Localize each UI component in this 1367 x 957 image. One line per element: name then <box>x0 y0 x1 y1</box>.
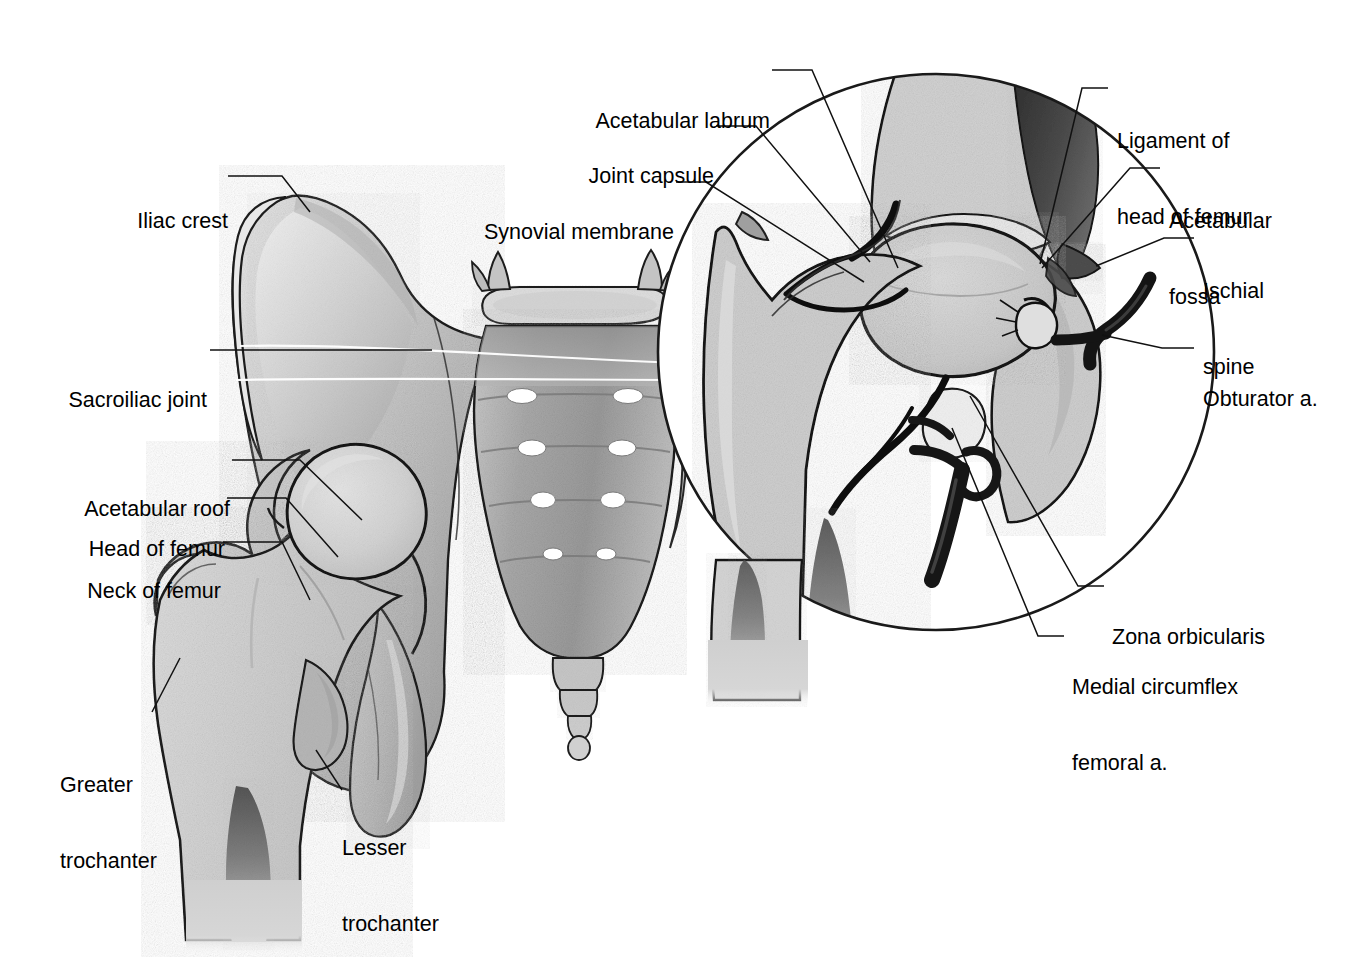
inset-femur-shaft-extension <box>708 560 808 708</box>
sacrum <box>472 250 678 760</box>
label-lesser-trochanter: Lesser trochanter <box>342 785 439 957</box>
label-synovial-membrane: Synovial membrane <box>340 169 674 296</box>
figure-canvas: Iliac crest Sacroiliac joint Acetabular … <box>0 0 1367 957</box>
label-sacroiliac-joint: Sacroiliac joint <box>0 337 207 464</box>
coccyx <box>553 658 603 760</box>
label-obturator-a: Obturator a. <box>1203 336 1318 463</box>
label-iliac-crest: Iliac crest <box>0 158 228 285</box>
label-medial-circumflex-femoral-a: Medial circumflex femoral a. <box>1072 624 1238 827</box>
label-neck-of-femur: Neck of femur <box>0 528 221 655</box>
label-greater-trochanter: Greater trochanter <box>60 722 157 925</box>
